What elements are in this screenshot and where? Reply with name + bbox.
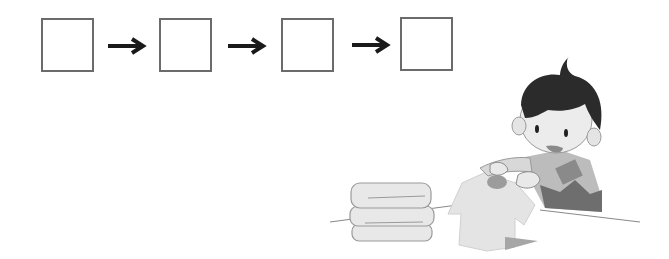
folded-towel-stack [350,183,434,241]
boy-folding-clothes-illustration [0,0,669,259]
